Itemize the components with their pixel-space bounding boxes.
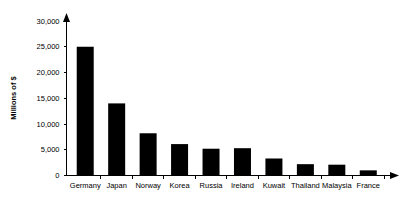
- x-axis-category-label: France: [357, 181, 380, 190]
- x-axis-category-label: Japan: [106, 181, 126, 190]
- bar: [108, 103, 125, 175]
- y-axis-tick-label: 0: [55, 171, 59, 180]
- chart-canvas: 05,00010,00015,00020,00025,00030,000 Ger…: [0, 0, 420, 205]
- x-axis-category-labels: GermanyJapanNorwayKoreaRussiaIrelandKuwa…: [70, 181, 380, 190]
- y-axis-tick-label: 5,000: [41, 145, 60, 154]
- x-axis-category-label: Ireland: [231, 181, 254, 190]
- y-axis-tick-label: 15,000: [37, 94, 60, 103]
- bar: [328, 165, 345, 176]
- x-axis-category-label: Russia: [200, 181, 224, 190]
- bar: [297, 164, 314, 175]
- y-axis: 05,00010,00015,00020,00025,00030,000: [37, 13, 70, 180]
- bar: [265, 159, 282, 176]
- y-axis-tick-label: 25,000: [37, 42, 60, 51]
- x-axis-arrow-icon: [390, 172, 399, 179]
- y-axis-tick-labels: 05,00010,00015,00020,00025,00030,000: [37, 17, 60, 181]
- x-axis-category-label: Malaysia: [322, 181, 352, 190]
- bar: [77, 47, 94, 176]
- bar: [140, 133, 157, 175]
- y-axis-tick-label: 30,000: [37, 17, 60, 26]
- bar-chart-figure: 05,00010,00015,00020,00025,00030,000 Ger…: [0, 0, 420, 205]
- x-axis-category-label: Kuwait: [263, 181, 286, 190]
- y-axis-title: Millions of $: [9, 76, 18, 120]
- x-axis-category-label: Korea: [170, 181, 191, 190]
- y-axis-tick-label: 20,000: [37, 68, 60, 77]
- x-axis-category-label: Norway: [135, 181, 161, 190]
- bar: [203, 149, 220, 176]
- bar: [234, 148, 251, 175]
- y-axis-title-group: Millions of $: [9, 76, 18, 120]
- bar-series: [77, 47, 377, 176]
- x-axis-category-label: Thailand: [291, 181, 320, 190]
- x-axis-category-label: Germany: [70, 181, 101, 190]
- bar: [360, 170, 377, 175]
- y-axis-tick-label: 10,000: [37, 120, 60, 129]
- bar: [171, 144, 188, 175]
